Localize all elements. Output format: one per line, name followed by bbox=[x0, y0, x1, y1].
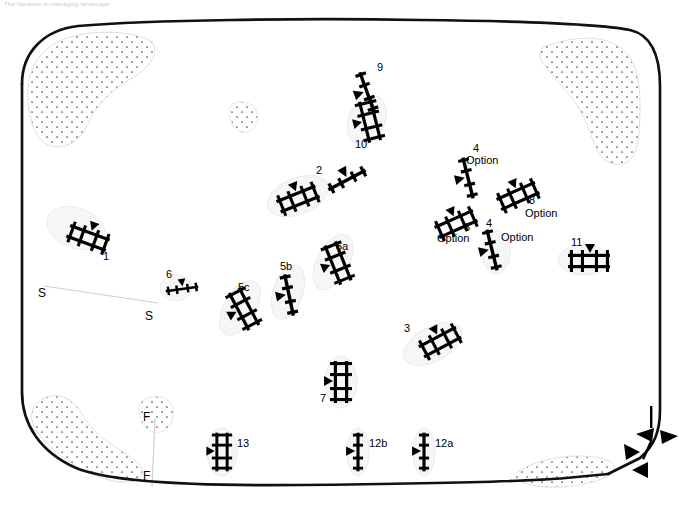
feature-label-11: 11 bbox=[571, 236, 582, 248]
feature-halos bbox=[41, 89, 610, 476]
feature-label-8-right: 8 bbox=[529, 194, 535, 206]
feature-label-9: 9 bbox=[377, 61, 383, 73]
stipple-bottom-left bbox=[31, 396, 142, 482]
feature-label-5c: 5c bbox=[238, 281, 250, 293]
feature-label-3: 3 bbox=[404, 322, 410, 334]
feature-label-4-top: 4 bbox=[473, 142, 479, 154]
stipple-top-right bbox=[540, 38, 640, 164]
feature-label-13: 13 bbox=[237, 437, 249, 449]
section-label-f-bottom: F bbox=[143, 470, 150, 483]
map-figure: The Variation in managing landscape bbox=[0, 0, 679, 521]
stipple-bottom-right bbox=[515, 456, 614, 487]
feature-label-5a: 5a bbox=[336, 240, 348, 252]
feature-label-4-bottom: 4 bbox=[486, 217, 492, 229]
section-label-f-top: F bbox=[143, 411, 150, 424]
feature-label-6: 6 bbox=[166, 268, 172, 280]
section-label-s-left: S bbox=[38, 287, 46, 300]
feature-label-12a: 12a bbox=[435, 437, 453, 449]
feature-option-label-4-top: Option bbox=[466, 154, 498, 166]
section-label-s-right: S bbox=[145, 310, 153, 323]
feature-option-label-8-right: Option bbox=[525, 207, 557, 219]
feature-label-12b: 12b bbox=[369, 437, 387, 449]
feature-label-7: 7 bbox=[320, 392, 326, 404]
feature-label-1: 1 bbox=[103, 250, 109, 262]
stipple-top-left bbox=[28, 32, 155, 147]
feature-option-label-8-left: Option bbox=[437, 232, 469, 244]
feature-option-label-4-bottom: Option bbox=[501, 231, 533, 243]
feature-label-10: 10 bbox=[355, 138, 367, 150]
feature-label-2: 2 bbox=[316, 164, 322, 176]
boundary-arrow-marks bbox=[624, 406, 678, 478]
feature-2b bbox=[322, 159, 368, 195]
map-canvas bbox=[0, 0, 679, 521]
section-line-s bbox=[44, 286, 158, 303]
stipple-center-small bbox=[229, 102, 257, 132]
feature-label-5b: 5b bbox=[280, 260, 292, 272]
